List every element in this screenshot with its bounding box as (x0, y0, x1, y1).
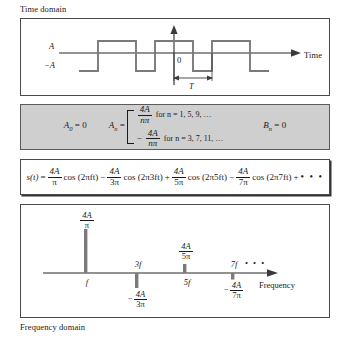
bn-equals-zero: = 0 (274, 120, 286, 130)
frequency-ellipsis: • • • (245, 258, 266, 268)
time-domain-label: Time domain (20, 4, 66, 14)
tick-label-7f: 7f (225, 259, 243, 269)
series-operator-1: − (100, 173, 105, 182)
tick-label-f: f (79, 277, 95, 287)
amplitude-negative-label: −A (44, 60, 55, 70)
term3-cosine: cos (2π5ft) (188, 173, 227, 182)
value-f-numerator: 4A (80, 211, 93, 220)
case1-denominator: nπ (138, 115, 152, 125)
cases-group: 4A nπ for n = 1, 5, 9, … − 4A nπ for n =… (127, 110, 224, 144)
series-operator-4: + (293, 173, 298, 182)
value-5f-denominator: 5π (179, 251, 192, 261)
an-subscript: n (114, 125, 117, 132)
value-label-f: 4A π (77, 211, 97, 230)
case1-numerator: 4A (138, 105, 152, 114)
term3-fraction: 4A 5π (172, 167, 186, 187)
time-domain-chart (21, 19, 329, 95)
value-7f-denominator: 7π (230, 290, 243, 300)
an-equals: = (120, 120, 125, 130)
frequency-axis-arrow (267, 269, 278, 277)
coefficient-bn: Bn = 0 (263, 121, 286, 132)
value-label-5f: 4A 5π (176, 242, 196, 261)
a0-equals-zero: = 0 (75, 120, 87, 130)
spectral-line-7f (231, 273, 234, 280)
frequency-domain-chart (21, 205, 329, 317)
term3-denominator: 5π (172, 177, 186, 187)
case2-denominator: nπ (146, 138, 160, 148)
series-ellipsis: • • • (301, 172, 324, 182)
frequency-domain-label: Frequency domain (20, 322, 85, 332)
case2-numerator: 4A (146, 129, 160, 138)
term1-numerator: 4A (48, 167, 62, 176)
term3-numerator: 4A (172, 167, 186, 176)
spectral-line-3f (135, 273, 138, 288)
term4-cosine: cos (2π7ft) (252, 173, 291, 182)
case2-condition: for n = 3, 7, 11, … (164, 135, 224, 143)
time-axis-arrow (291, 49, 301, 57)
term1-fraction: 4A π (48, 167, 62, 187)
origin-label: 0 (177, 55, 181, 65)
series-operator-3: − (229, 173, 234, 182)
term2-fraction: 4A 3π (107, 167, 121, 187)
period-label: T (189, 81, 194, 91)
time-axis-label: Time (304, 50, 322, 60)
value-3f-numerator: 4A (134, 290, 147, 299)
vertical-axis-arrow (170, 25, 177, 34)
case1-fraction: 4A nπ (138, 105, 152, 125)
term1-denominator: π (48, 177, 62, 187)
term4-fraction: 4A 7π (236, 167, 250, 187)
value-7f-sign: − (224, 284, 229, 294)
series-operator-2: + (165, 173, 170, 182)
value-label-7f: − 4A 7π (217, 281, 251, 300)
term2-cosine: cos (2π3ft) (123, 173, 162, 182)
tick-label-3f: 3f (129, 259, 147, 269)
term1-cosine: cos (2πft) (64, 173, 99, 182)
spectral-line-f (84, 229, 87, 273)
term2-denominator: 3π (107, 177, 121, 187)
term4-numerator: 4A (236, 167, 250, 176)
case-row-1: 4A nπ for n = 1, 5, 9, … (137, 105, 224, 125)
series-lhs: s(t) (26, 173, 38, 182)
case1-condition: for n = 1, 5, 9, … (156, 111, 212, 119)
series-equation-panel: s(t) = 4A π cos (2πft) − 4A 3π cos (2π3f… (20, 159, 330, 195)
value-3f-sign: − (128, 293, 133, 303)
term2-numerator: 4A (107, 167, 121, 176)
value-label-3f: − 4A 3π (121, 290, 155, 309)
a0-subscript: 0 (69, 125, 72, 132)
amplitude-positive-label: A (49, 41, 54, 51)
case-brace (127, 110, 134, 144)
term4-denominator: 7π (236, 177, 250, 187)
coefficients-panel: A0 = 0 An = 4A nπ for n = 1, 5, 9, … (20, 104, 330, 150)
series-equals: = (40, 173, 45, 182)
frequency-axis-label: Frequency (259, 280, 295, 290)
coefficient-a0: A0 = 0 (64, 121, 87, 132)
bn-subscript: n (269, 125, 272, 132)
tick-label-5f: 5f (178, 277, 196, 287)
case-row-2: − 4A nπ for n = 3, 7, 11, … (137, 129, 224, 149)
coefficient-an: An = (109, 121, 125, 132)
value-f-denominator: π (80, 220, 93, 230)
value-7f-numerator: 4A (230, 281, 243, 290)
time-domain-panel: A −A 0 Time T (20, 18, 330, 96)
case2-sign: − (137, 134, 142, 143)
value-3f-denominator: 3π (134, 299, 147, 309)
spectral-line-5f (183, 264, 186, 273)
frequency-domain-panel: 4A π f 3f − 4A 3π 4A 5π 5f 7f − 4A 7π • … (20, 204, 330, 318)
case2-fraction: 4A nπ (146, 129, 160, 149)
value-5f-numerator: 4A (179, 242, 192, 251)
